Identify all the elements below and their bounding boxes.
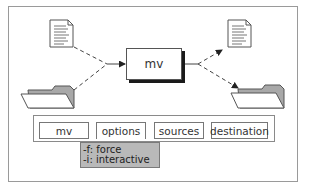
segment-label: sources bbox=[159, 125, 199, 137]
mv-command-label: mv bbox=[145, 57, 164, 71]
command-segment-mv[interactable]: mv bbox=[39, 122, 89, 139]
source-folder-icon bbox=[21, 86, 74, 108]
segment-label: destination bbox=[210, 125, 269, 137]
mv-command-box: mv bbox=[126, 48, 182, 80]
command-segment-destination[interactable]: destination bbox=[211, 122, 268, 139]
segment-label: mv bbox=[56, 125, 72, 137]
command-syntax-bar: mv options sources destination bbox=[33, 115, 275, 142]
segment-label: options bbox=[102, 125, 141, 137]
options-dropdown: -f: force -i: interactive bbox=[80, 142, 160, 168]
command-segment-options[interactable]: options bbox=[96, 122, 146, 139]
option-interactive[interactable]: -i: interactive bbox=[83, 155, 159, 165]
command-segment-sources[interactable]: sources bbox=[154, 122, 204, 139]
source-connectors bbox=[74, 47, 125, 90]
destination-connectors bbox=[185, 50, 238, 88]
destination-folder-icon bbox=[231, 85, 284, 108]
destination-document-icon bbox=[228, 20, 251, 47]
source-document-icon bbox=[50, 20, 73, 47]
